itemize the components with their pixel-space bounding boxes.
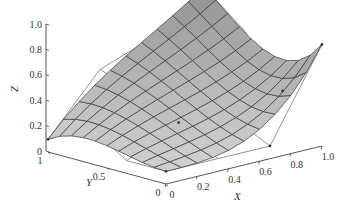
- control-point-marker: [269, 145, 272, 148]
- x-tick-label: 0.4: [228, 174, 241, 185]
- y-tick-label: 0: [156, 187, 161, 198]
- x-tick-label: 0.8: [291, 159, 304, 170]
- surface-mesh: [48, 0, 322, 171]
- control-point-marker: [47, 138, 50, 141]
- x-axis-label: X: [233, 190, 242, 202]
- x-tick-label: 1.0: [322, 151, 335, 162]
- z-tick-label: 0.6: [30, 69, 43, 80]
- z-axis-label: Z: [8, 85, 20, 92]
- control-point-marker: [281, 89, 284, 92]
- z-tick-label: 1.0: [30, 19, 43, 30]
- x-tick-label: 0.6: [259, 166, 272, 177]
- x-tick-label: 0: [170, 189, 175, 200]
- z-tick-label: 0.4: [30, 95, 43, 106]
- y-tick-label: 1: [38, 155, 43, 166]
- surface-plot: 00.20.40.60.81.0 00.51 00.20.40.60.81.0 …: [0, 0, 339, 212]
- z-tick-label: 0.8: [30, 44, 43, 55]
- control-point-marker: [165, 170, 168, 173]
- x-tick-label: 0.2: [197, 181, 210, 192]
- y-tick-label: 0.5: [93, 171, 106, 182]
- control-point-marker: [321, 43, 324, 46]
- control-point-marker: [177, 121, 180, 124]
- z-tick-label: 0.2: [30, 120, 43, 131]
